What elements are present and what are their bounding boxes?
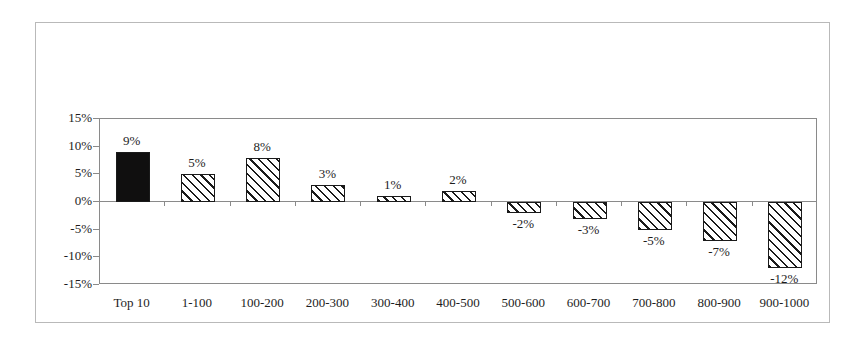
plot-area <box>99 118 817 284</box>
bar-value-label: 8% <box>232 140 292 153</box>
bar-value-label: -7% <box>689 245 749 258</box>
bar-100-200[interactable] <box>246 158 280 202</box>
x-axis-tick-mark <box>164 201 165 206</box>
x-axis-tick-mark <box>752 201 753 206</box>
bar-value-label: -3% <box>559 223 619 236</box>
bar-value-label: -5% <box>624 234 684 247</box>
bar-value-label: -12% <box>754 272 814 285</box>
y-axis-tick-mark <box>93 201 99 202</box>
x-axis-tick-mark <box>556 201 557 206</box>
bar-value-label: 3% <box>297 167 357 180</box>
bar-400-500[interactable] <box>442 191 476 202</box>
bar-top-10[interactable] <box>116 152 150 202</box>
bar-value-label: 1% <box>363 178 423 191</box>
chart-figure: 15%10%5%0%-5%-10%-15% 9%Top 105%1-1008%1… <box>0 0 865 351</box>
x-axis-tick-mark <box>491 201 492 206</box>
y-axis-tick-mark <box>93 173 99 174</box>
bar-300-400[interactable] <box>377 196 411 202</box>
bar-value-label: 2% <box>428 173 488 186</box>
y-axis-tick-mark <box>93 284 99 285</box>
bar-1-100[interactable] <box>181 174 215 202</box>
bar-value-label: 9% <box>102 134 162 147</box>
x-axis-tick-mark <box>230 201 231 206</box>
x-axis-tick-label: 900-1000 <box>739 296 829 309</box>
bar-900-1000[interactable] <box>768 202 802 268</box>
y-axis-tick-mark <box>93 256 99 257</box>
y-axis-tick-mark <box>93 146 99 147</box>
x-axis-tick-mark <box>425 201 426 206</box>
bar-700-800[interactable] <box>638 202 672 230</box>
x-axis-tick-mark <box>686 201 687 206</box>
x-axis-tick-mark <box>360 201 361 206</box>
bar-800-900[interactable] <box>703 202 737 241</box>
bar-value-label: 5% <box>167 156 227 169</box>
x-axis-tick-mark <box>295 201 296 206</box>
bar-value-label: -2% <box>493 217 553 230</box>
y-axis-tick-mark <box>93 118 99 119</box>
y-axis-tick-mark <box>93 229 99 230</box>
x-axis-tick-mark <box>621 201 622 206</box>
bar-500-600[interactable] <box>507 202 541 213</box>
bar-600-700[interactable] <box>573 202 607 219</box>
bar-200-300[interactable] <box>311 185 345 202</box>
